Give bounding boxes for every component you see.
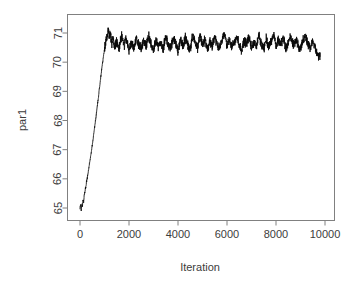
x-axis-title: Iteration <box>180 261 220 273</box>
y-tick-label: 70 <box>52 56 64 68</box>
y-tick-label: 71 <box>52 27 64 39</box>
x-tick-label: 4000 <box>166 228 190 240</box>
trace-plot-figure: 0200040006000800010000 65666768697071 It… <box>0 0 355 287</box>
y-axis-title: par1 <box>16 109 28 131</box>
x-tick-label: 0 <box>77 228 83 240</box>
x-tick-label: 10000 <box>310 228 341 240</box>
x-tick-label: 8000 <box>264 228 288 240</box>
plot-canvas: 0200040006000800010000 65666768697071 It… <box>0 0 355 287</box>
y-tick-label: 69 <box>52 85 64 97</box>
x-tick-label: 2000 <box>117 228 141 240</box>
x-tick-label: 6000 <box>215 228 239 240</box>
y-tick-label: 67 <box>52 144 64 156</box>
y-tick-label: 68 <box>52 114 64 126</box>
y-tick-label: 65 <box>52 202 64 214</box>
y-tick-label: 66 <box>52 173 64 185</box>
